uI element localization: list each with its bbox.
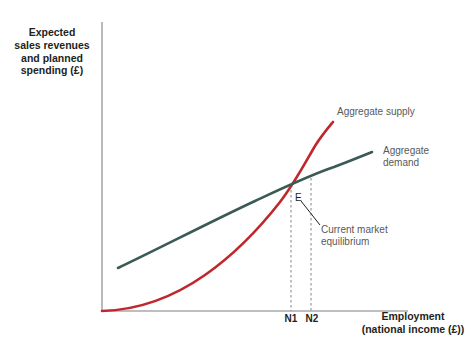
aggregate-demand-curve (118, 152, 372, 268)
aggregate-supply-curve (102, 122, 333, 311)
aggregate-supply-label: Aggregate supply (337, 106, 415, 118)
y-axis-title: Expected sales revenues and planned spen… (8, 26, 96, 77)
x-tick-label-n1: N1 (280, 313, 302, 325)
x-axis-title: Employment (national income (£)) (352, 310, 474, 336)
aggregate-supply-demand-chart: Expected sales revenues and planned spen… (0, 0, 474, 354)
x-tick-label-n2: N2 (301, 313, 323, 325)
equilibrium-point-marker-label: E (295, 192, 302, 204)
aggregate-demand-label: Aggregate demand (383, 145, 467, 169)
equilibrium-annotation-text: Current market equilibrium (321, 224, 417, 248)
